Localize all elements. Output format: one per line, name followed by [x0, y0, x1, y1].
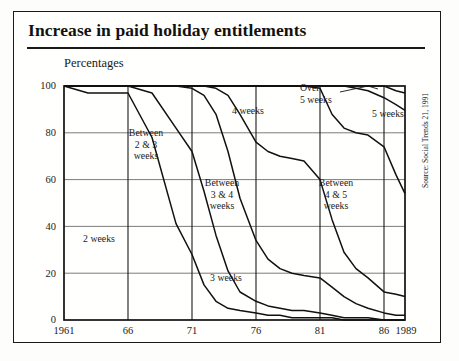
boundary-5-weeks	[64, 86, 405, 93]
band-label-5-weeks: 5 weeks	[364, 108, 412, 120]
band-label-between-2-3: Between 2 & 3 weeks	[120, 127, 172, 162]
source-note: Source: Social Trends 21, 1991	[421, 58, 430, 188]
band-label-2-weeks: 2 weeks	[68, 233, 130, 245]
figure-page: Increase in paid holiday entitlements Pe…	[0, 0, 459, 361]
band-label-between-3-4: Between 3 & 4 weeks	[196, 177, 248, 212]
band-label-3-weeks: 3 weeks	[200, 272, 252, 284]
band-label-over-5-weeks: Over 5 weeks	[300, 82, 350, 105]
band-label-between-4-5: Between 4 & 5 weeks	[310, 177, 362, 212]
band-label-4-weeks: 4 weeks	[222, 105, 274, 117]
